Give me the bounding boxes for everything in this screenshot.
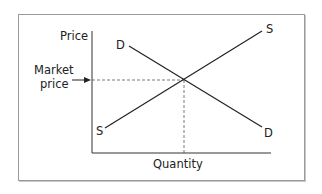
y-axis-label: Price	[60, 30, 88, 43]
demand-curve	[129, 46, 262, 127]
x-axis-label: Quantity	[153, 158, 203, 171]
demand-start-label: D	[116, 39, 125, 52]
supply-end-label: S	[266, 23, 273, 36]
market-price-label-line2: price	[40, 78, 69, 91]
market-price-label-line1: Market	[34, 64, 74, 77]
supply-curve	[105, 31, 262, 128]
demand-end-label: D	[264, 127, 273, 140]
supply-start-label: S	[96, 125, 103, 138]
arrowhead-icon	[84, 77, 91, 83]
